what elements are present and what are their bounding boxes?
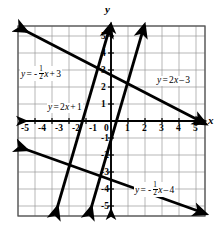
coordinate-plane-figure: y x -5 -4 -3 -2 -1 0 1 2 3 4 5 5 4 3 2 1…: [0, 0, 220, 226]
xtick-label-2: 2: [142, 124, 147, 134]
eq4-operator: –: [163, 185, 170, 195]
xtick-label-3: 3: [159, 124, 164, 134]
xtick-label--5: -5: [21, 124, 29, 134]
ytick-label--2: -2: [101, 151, 109, 161]
y-axis-label: y: [105, 4, 110, 15]
xtick-label-1: 1: [125, 124, 130, 134]
ytick-label--4: -4: [101, 185, 109, 195]
xtick-label--3: -3: [55, 124, 63, 134]
graph-canvas: [0, 0, 220, 226]
eq4-constant: 4: [170, 185, 175, 195]
ytick-label--3: -3: [101, 168, 109, 178]
ytick-label--1: -1: [101, 134, 109, 144]
xtick-label--4: -4: [38, 124, 46, 134]
eq3-equals: =: [161, 75, 169, 85]
xtick-label--2: -2: [72, 124, 80, 134]
equation-label-neg-half-x-plus-3: y=-12x+3: [20, 66, 62, 81]
x-axis-label: x: [208, 115, 214, 126]
xtick-label--1: -1: [89, 124, 97, 134]
equation-label-2x-minus-3: y=2x–3: [156, 76, 191, 86]
xtick-label-5: 5: [193, 124, 198, 134]
ytick-label-3: 3: [101, 66, 106, 76]
eq4-fraction: 12: [153, 182, 158, 197]
eq1-operator: +: [49, 69, 57, 79]
eq4-frac-denominator: 2: [153, 190, 158, 197]
eq2-constant: 1: [77, 102, 82, 112]
eq1-frac-denominator: 2: [39, 74, 44, 81]
eq2-operator: +: [69, 102, 77, 112]
ytick-label--5: -5: [101, 202, 109, 212]
eq4-sign: -: [147, 185, 152, 195]
ytick-label-5: 5: [101, 32, 106, 42]
eq1-variable: x: [44, 69, 48, 79]
eq3-constant: 3: [185, 75, 190, 85]
eq4-variable: x: [158, 185, 162, 195]
eq4-equals: =: [139, 185, 147, 195]
xtick-label-4: 4: [176, 124, 181, 134]
ytick-label-1: 1: [101, 100, 106, 110]
ytick-label-2: 2: [101, 83, 106, 93]
eq1-constant: 3: [56, 69, 61, 79]
equation-label-neg-half-x-minus-4: y=-12x–4: [134, 182, 175, 197]
eq1-sign: -: [33, 69, 38, 79]
eq1-fraction: 12: [39, 66, 44, 81]
eq1-equals: =: [25, 69, 33, 79]
ytick-label-4: 4: [101, 49, 106, 59]
equation-label-2x-plus-1: y=2x+1: [47, 103, 83, 113]
eq2-equals: =: [52, 102, 60, 112]
